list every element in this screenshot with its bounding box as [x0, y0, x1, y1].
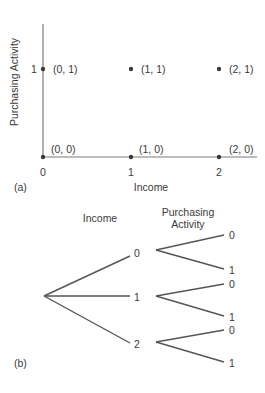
x-axis-title: Income — [134, 181, 169, 193]
purchase-node-i2-0: 0 — [229, 324, 235, 336]
point-label-2-1: (2, 1) — [229, 63, 254, 75]
branch-root-income-2 — [44, 296, 130, 343]
point-2-0 — [217, 155, 221, 159]
tree-header-purchasing: Purchasing — [162, 206, 215, 218]
purchase-node-i0-1: 1 — [229, 264, 235, 276]
branch-root-income-0 — [44, 256, 130, 296]
point-0-0 — [41, 155, 45, 159]
x-tick-2: 2 — [216, 166, 222, 178]
point-label-1-1: (1, 1) — [141, 63, 166, 75]
panel-b-tree: Income Purchasing Activity 0 1 2 0 1 0 1… — [14, 206, 235, 369]
branch-i2-p0 — [156, 330, 224, 342]
point-2-1 — [217, 67, 221, 71]
purchase-node-i2-1: 1 — [229, 357, 235, 369]
x-tick-1: 1 — [128, 166, 134, 178]
point-1-1 — [129, 67, 133, 71]
branch-i0-p0 — [156, 235, 224, 250]
panel-b-label: (b) — [14, 357, 27, 369]
purchase-node-i1-0: 0 — [229, 278, 235, 290]
y-tick-1: 1 — [31, 63, 37, 75]
purchase-node-i0-0: 0 — [229, 229, 235, 241]
branch-i2-p1 — [156, 342, 224, 362]
y-axis-title: Purchasing Activity — [8, 37, 20, 126]
x-tick-0: 0 — [40, 166, 46, 178]
branch-i1-p1 — [156, 296, 224, 316]
income-node-2: 2 — [134, 338, 140, 350]
diagram-canvas: Purchasing Activity 1 0 1 2 Income (a) (… — [0, 0, 265, 393]
purchase-node-i1-1: 1 — [229, 311, 235, 323]
branch-i0-p1 — [156, 250, 224, 269]
point-1-0 — [129, 155, 133, 159]
tree-header-activity: Activity — [171, 218, 205, 230]
point-label-0-1: (0, 1) — [53, 63, 78, 75]
income-node-1: 1 — [134, 291, 140, 303]
income-node-0: 0 — [134, 247, 140, 259]
point-label-2-0: (2, 0) — [229, 143, 254, 155]
tree-header-income: Income — [83, 212, 118, 224]
point-0-1 — [41, 67, 45, 71]
point-label-1-0: (1, 0) — [139, 143, 164, 155]
point-label-0-0: (0, 0) — [51, 143, 76, 155]
panel-a-plot: Purchasing Activity 1 0 1 2 Income (a) (… — [8, 24, 257, 193]
branch-i1-p0 — [156, 284, 224, 296]
panel-a-label: (a) — [14, 181, 27, 193]
